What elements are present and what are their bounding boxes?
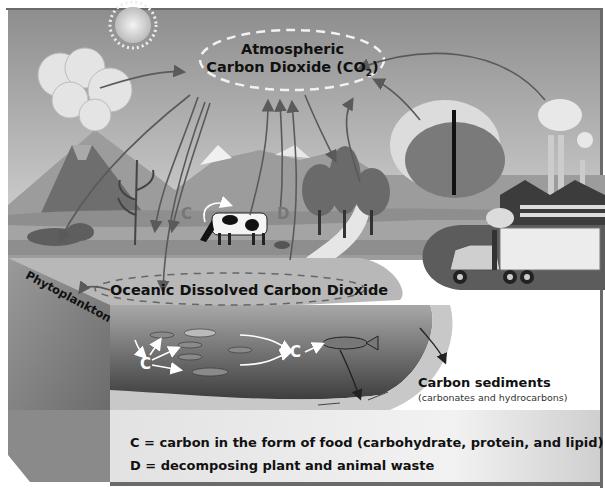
legend-c: C = carbon in the form of food (carbohyd… <box>130 435 603 450</box>
marker-c-land: C <box>181 205 192 223</box>
marker-c-ocean-1: C <box>140 355 151 373</box>
ocean-deep <box>110 305 433 399</box>
carbon-sediments-label: Carbon sediments <box>418 375 551 390</box>
atmospheric-line2: Carbon Dioxide (CO <box>206 59 365 75</box>
waste-pile <box>274 241 290 249</box>
carbon-sediments-sublabel: (carbonates and hydrocarbons) <box>418 392 567 403</box>
carbon-cycle-diagram: Atmospheric Carbon Dioxide (CO2) Oceanic… <box>0 0 605 493</box>
oceanic-co2-label: Oceanic Dissolved Carbon Dioxide <box>110 282 388 298</box>
marker-c-ocean-2: C <box>290 343 301 361</box>
legend-d: D = decomposing plant and animal waste <box>130 458 434 473</box>
atmospheric-close: ) <box>372 59 379 75</box>
atmospheric-co2-label: Atmospheric Carbon Dioxide (CO2) <box>205 40 380 82</box>
marker-d-land: D <box>277 205 289 223</box>
atmospheric-line1: Atmospheric <box>241 41 344 57</box>
